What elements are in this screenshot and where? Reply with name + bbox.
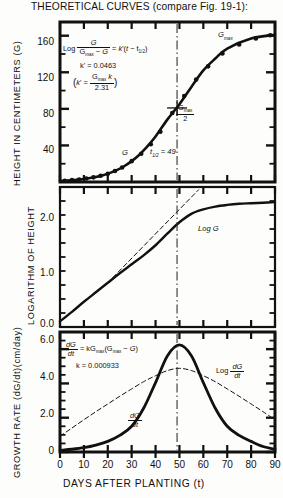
figure-root: THEORETICAL CURVES (compare Fig. 19-1): … [0, 0, 283, 498]
plot-drawing-layer [0, 0, 283, 498]
